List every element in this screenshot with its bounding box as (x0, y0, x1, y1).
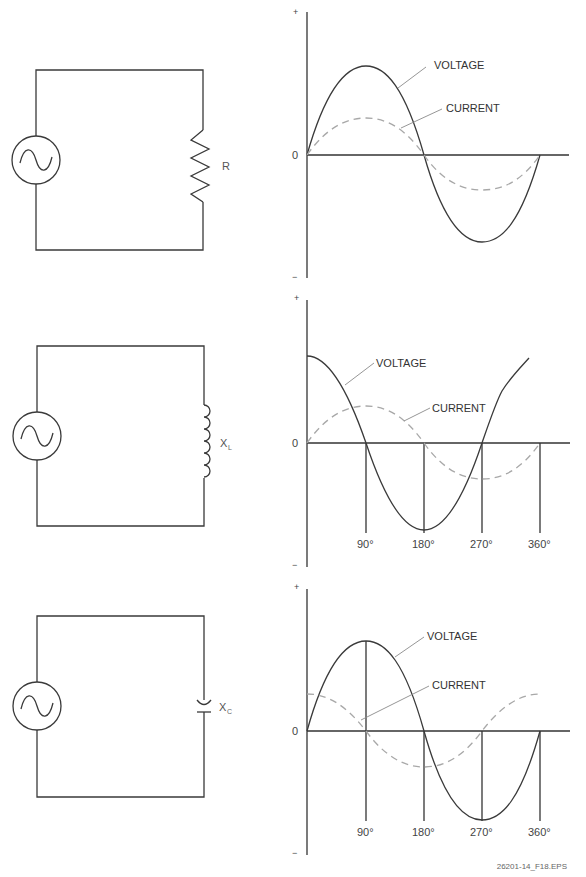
ac-source-icon (12, 136, 60, 184)
circuit-capacitor: X C (13, 616, 232, 797)
current-label: CURRENT (446, 102, 500, 114)
figure-canvas: R + − 0 VOLTAGE CURRENT X L + − 0 (0, 0, 586, 877)
circuit-wire (37, 616, 204, 700)
zero-label: 0 (292, 725, 298, 737)
component-label: R (222, 160, 230, 172)
voltage-label: VOLTAGE (376, 357, 426, 369)
ac-source-icon (13, 682, 61, 730)
tick-label-360: 360° (528, 538, 551, 550)
voltage-leader (398, 67, 426, 88)
tick-label-180: 180° (412, 538, 435, 550)
voltage-label: VOLTAGE (434, 59, 484, 71)
voltage-label: VOLTAGE (427, 630, 477, 642)
ac-source-icon (13, 412, 61, 460)
tick-label-270: 270° (470, 538, 493, 550)
waveform-graph-inductor: + − 0 VOLTAGE CURRENT 90° 180° 270° 360° (292, 293, 570, 570)
resistor-icon (191, 130, 209, 202)
circuit-wire (36, 70, 203, 136)
minus-label: − (292, 560, 297, 570)
zero-label: 0 (292, 437, 298, 449)
capacitor-icon (197, 700, 211, 712)
circuit-wire (37, 460, 204, 526)
waveform-graph-resistor: + − 0 VOLTAGE CURRENT (292, 7, 569, 282)
tick-label-90: 90° (357, 826, 374, 838)
zero-label: 0 (292, 149, 298, 161)
component-subscript: L (228, 444, 232, 451)
tick-label-180: 180° (412, 826, 435, 838)
current-leader (401, 109, 442, 128)
voltage-wave (307, 66, 540, 242)
minus-label: − (292, 272, 297, 282)
waveform-graph-capacitor: + − 0 VOLTAGE CURRENT 90° 180° 270° 360° (292, 582, 570, 858)
plus-label: + (294, 293, 299, 303)
current-label: CURRENT (432, 402, 486, 414)
voltage-leader (395, 637, 424, 657)
circuit-inductor: X L (13, 346, 232, 526)
inductor-icon (204, 405, 210, 477)
plus-label: + (293, 7, 298, 17)
voltage-leader (345, 363, 374, 385)
figure-id-label: 26201-14_F18.EPS (497, 862, 567, 871)
current-leader (404, 408, 430, 421)
circuit-wire (36, 184, 203, 250)
current-label: CURRENT (432, 679, 486, 691)
tick-label-90: 90° (357, 538, 374, 550)
component-label: X (219, 701, 227, 713)
tick-label-360: 360° (528, 826, 551, 838)
circuit-resistor: R (12, 70, 230, 250)
component-label: X (220, 437, 228, 449)
circuit-wire (37, 346, 204, 412)
tick-label-270: 270° (470, 826, 493, 838)
plus-label: + (294, 582, 299, 592)
component-subscript: C (227, 708, 232, 715)
minus-label: − (292, 848, 297, 858)
circuit-wire (37, 712, 204, 797)
